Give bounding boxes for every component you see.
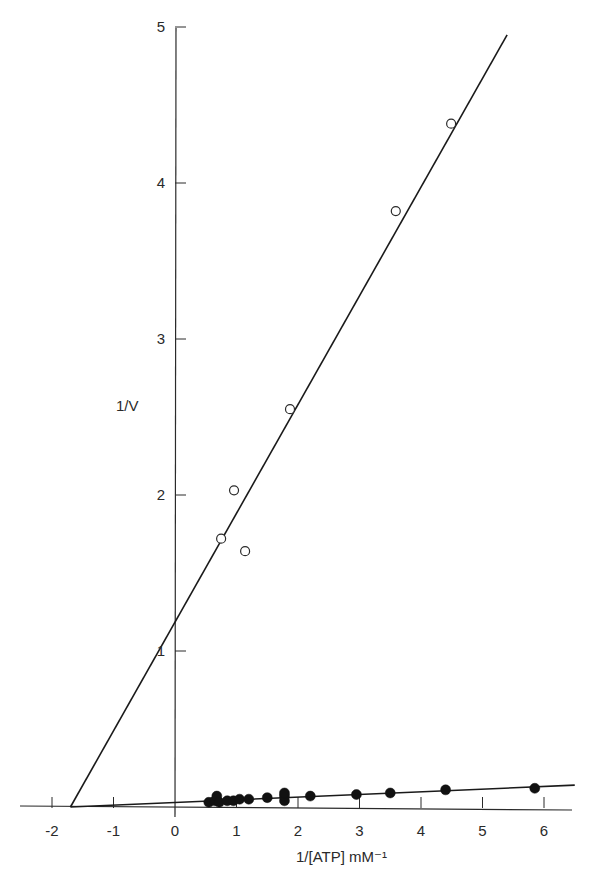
x-tick-label: 0 [171,822,179,839]
x-axis-line [20,806,572,810]
y-axis-line [175,28,176,817]
y-tick-label: 1 [157,642,165,659]
tick-labels: -2-1012345612345 [45,18,548,839]
x-tick-label: 6 [540,822,548,839]
open-circle-marker [286,405,295,414]
y-tick-label: 3 [157,330,165,347]
open-circle-marker [241,547,250,556]
open-circle-marker [230,486,239,495]
filled-circle-marker [351,790,361,800]
x-tick-label: 1 [232,822,240,839]
x-tick-label: 2 [294,822,302,839]
y-tick-label: 2 [157,486,165,503]
axes [20,27,572,817]
filled-circle-marker [244,794,254,804]
filled-circle-marker [305,791,315,801]
filled-circle-marker [441,785,451,795]
y-tick-label: 5 [157,18,165,35]
fit-lines [70,35,574,807]
x-tick-label: 4 [417,822,425,839]
y-axis-title: 1/V [116,397,139,414]
filled-circle-marker [262,793,272,803]
x-axis-title: 1/[ATP] mM⁻¹ [296,848,387,865]
data-points [204,119,540,807]
filled-circle-marker [385,788,395,798]
x-tick-label: 5 [478,822,486,839]
open-circle-marker [391,207,400,216]
filled-circle-marker [279,788,289,798]
lineweaver-burk-plot: -2-1012345612345 1/V 1/[ATP] mM⁻¹ [0,0,594,881]
x-tick-label: 3 [355,822,363,839]
filled-circle-marker [530,783,540,793]
filled-circle-marker [235,794,245,804]
x-tick-label: -1 [107,822,120,839]
y-tick-label: 4 [157,174,165,191]
open-circle-marker [217,534,226,543]
open-circle-marker [447,119,456,128]
filled-series-fit-line [70,785,574,807]
open-series-fit-line [70,35,507,807]
x-tick-label: -2 [45,822,58,839]
